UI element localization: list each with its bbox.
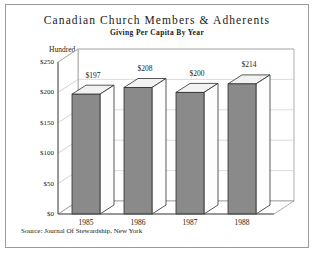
bar-value-1988: $214 (227, 60, 271, 69)
x-tick-1987: 1987 (170, 218, 210, 227)
y-axis-tick-labels: $250 $200 $150 $100 $50 $0 (20, 5, 54, 249)
x-tick-1985: 1985 (66, 218, 106, 227)
bar-value-1986: $208 (123, 64, 167, 73)
bar-1985 (72, 85, 114, 214)
bar-side-face (152, 79, 166, 215)
bar-value-1987: $200 (175, 69, 219, 78)
x-tick-1988: 1988 (222, 218, 262, 227)
bar-side-face (100, 85, 114, 214)
bar-1987 (176, 83, 218, 214)
bar-value-1985: $197 (71, 71, 115, 80)
source-note: Source: Journal Of Stewardship, New York (21, 227, 142, 235)
bar-1986 (124, 79, 166, 215)
y-tick-50: $50 (26, 180, 54, 188)
bar-front-face (124, 88, 152, 215)
bar-front-face (72, 94, 100, 214)
bar-side-face (204, 83, 218, 214)
y-tick-200: $200 (26, 88, 54, 96)
y-tick-250: $250 (26, 58, 54, 66)
y-tick-150: $150 (26, 119, 54, 127)
x-tick-1986: 1986 (118, 218, 158, 227)
bar-side-face (256, 75, 270, 214)
y-tick-0: $0 (26, 210, 54, 218)
y-tick-100: $100 (26, 149, 54, 157)
bar-1988 (228, 75, 270, 214)
bar-front-face (176, 92, 204, 214)
chart-figure: Canadian Church Members & Adherents Givi… (5, 4, 309, 248)
bar-front-face (228, 84, 256, 214)
